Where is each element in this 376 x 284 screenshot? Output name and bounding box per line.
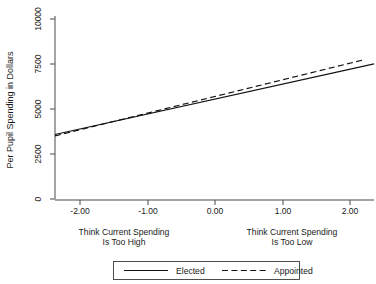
legend-label-elected: Elected (176, 266, 205, 276)
annotation-left-line1: Think Current Spending (79, 227, 170, 237)
chart-figure: Per Pupil Spending in Dollars 0 2500 500… (0, 0, 376, 284)
chart-svg: Per Pupil Spending in Dollars 0 2500 500… (0, 0, 376, 284)
x-tick-label-pos2: 2.00 (342, 206, 359, 216)
x-tick-marks (80, 200, 350, 205)
y-tick-labels: 0 2500 5000 7500 10000 (33, 7, 43, 201)
x-axis-annotation-left: Think Current Spending Is Too High (79, 227, 170, 247)
y-tick-label-7500: 7500 (33, 54, 43, 73)
chart-legend: Elected Appointed (114, 262, 313, 280)
annotation-left-line2: Is Too High (103, 237, 146, 247)
x-axis-annotation-right: Think Current Spending Is Too Low (247, 227, 338, 247)
x-tick-label-zero: 0.00 (207, 206, 224, 216)
y-tick-label-10000: 10000 (33, 7, 43, 31)
x-tick-label-pos1: 1.00 (275, 206, 292, 216)
y-tick-label-2500: 2500 (33, 144, 43, 163)
x-tick-label-neg1: -1.00 (138, 206, 158, 216)
series-line-appointed (55, 60, 365, 136)
annotation-right-line2: Is Too Low (272, 237, 314, 247)
y-tick-label-0: 0 (33, 196, 43, 201)
y-tick-label-5000: 5000 (33, 99, 43, 118)
x-tick-labels: -2.00 -1.00 0.00 1.00 2.00 (70, 206, 358, 216)
annotation-right-line1: Think Current Spending (247, 227, 338, 237)
x-tick-label-neg2: -2.00 (70, 206, 90, 216)
y-axis-label: Per Pupil Spending in Dollars (5, 51, 15, 169)
legend-label-appointed: Appointed (274, 266, 313, 276)
y-tick-marks (50, 19, 55, 199)
